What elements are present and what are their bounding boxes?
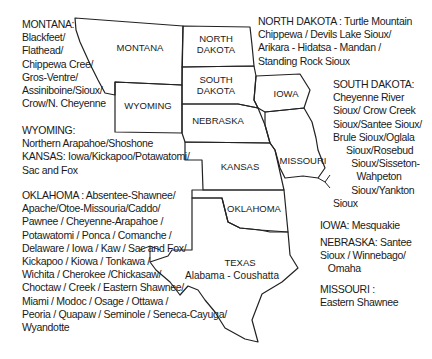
legend-north-dakota: NORTH DAKOTA : Turtle Mountain Chippewa … [258,15,412,68]
legend-iowa: IOWA: Mesquakie [320,219,400,232]
legend-montana: MONTANA: Blackfeet/ Flathead/ Chippewa C… [22,18,106,110]
legend-south-dakota: SOUTH DAKOTA: Cheyenne River Sioux/ Crow… [333,78,422,210]
tribal-map: MONTANA NORTH DAKOTA SOUTH DAKOTA WYOMIN… [0,0,432,359]
state-label-nebraska: NEBRASKA [188,115,248,126]
state-label-wyoming: WYOMING [118,100,178,111]
legend-nebraska: NEBRASKA: Santee Sioux / Winnebago/ Omah… [320,236,412,276]
legend-oklahoma: OKLAHOMA : Absentee-Shawnee/ Apache/Otoe… [22,189,227,334]
state-label-kansas: KANSAS [210,161,270,172]
state-label-oklahoma: OKLAHOMA [224,203,284,214]
missouri-shape [265,108,325,178]
state-label-south-dakota: SOUTH DAKOTA [188,74,244,96]
south-dakota-pointer-line [318,175,330,188]
state-label-montana: MONTANA [105,42,175,53]
state-label-north-dakota: NORTH DAKOTA [188,33,244,55]
state-label-iowa: IOWA [266,88,306,99]
state-label-missouri: MISSOURI [278,155,328,166]
legend-missouri: MISSOURI : Eastern Shawnee [320,283,398,309]
legend-wyoming-kansas: WYOMING: Northern Arapahoe/Shoshone KANS… [22,124,190,177]
